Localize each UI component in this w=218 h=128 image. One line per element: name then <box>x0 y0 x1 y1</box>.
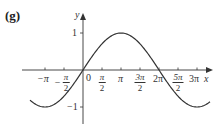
x-axis-label: x <box>204 74 208 84</box>
y-axis-label: y <box>75 10 79 20</box>
x-tick-label-neg-pi: −π <box>37 74 49 84</box>
x-tick-label-origin: 0 <box>86 73 91 83</box>
x-tick-label-neg-pi-half: π 2 <box>63 73 70 93</box>
x-tick-label-pi-half: π 2 <box>99 73 106 93</box>
x-tick-label-two-pi: 2π <box>153 74 163 84</box>
x-tick-label-three-pi: 3π <box>189 74 199 84</box>
y-tick-label-neg1: −1 <box>67 102 78 112</box>
sine-graph <box>0 0 218 128</box>
y-tick-label-1: 1 <box>72 28 77 38</box>
x-tick-label-three-pi-half: 3π 2 <box>134 73 145 93</box>
x-tick-label-five-pi-half: 5π 2 <box>172 73 183 93</box>
x-tick-label-pi: π <box>118 74 123 84</box>
y-axis-arrow-icon <box>80 13 86 20</box>
